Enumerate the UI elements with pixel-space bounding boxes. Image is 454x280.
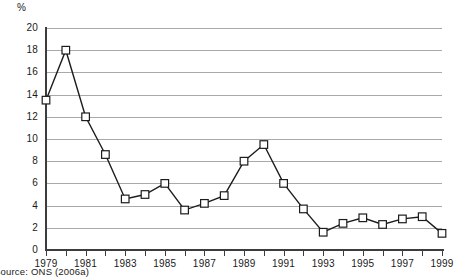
source-note: Source: ONS (2006a) xyxy=(0,266,89,277)
data-point-1994 xyxy=(339,220,347,228)
data-point-1991 xyxy=(280,180,288,188)
data-point-1999 xyxy=(438,230,446,238)
data-point-1986 xyxy=(181,206,189,214)
data-point-1990 xyxy=(260,141,268,149)
data-point-1987 xyxy=(201,200,209,208)
data-point-1983 xyxy=(121,195,129,203)
data-point-1982 xyxy=(102,151,110,159)
data-point-1989 xyxy=(240,157,248,165)
data-point-1984 xyxy=(141,191,149,199)
data-point-1998 xyxy=(418,213,426,221)
data-point-1996 xyxy=(379,221,387,229)
data-point-1995 xyxy=(359,214,367,222)
data-point-1981 xyxy=(82,113,90,121)
data-point-1988 xyxy=(220,192,228,200)
data-point-1992 xyxy=(300,205,308,213)
data-point-1993 xyxy=(319,228,327,236)
series-line xyxy=(46,50,442,233)
data-point-1997 xyxy=(399,215,407,223)
data-point-1979 xyxy=(42,96,50,104)
data-point-1985 xyxy=(161,180,169,188)
data-point-1980 xyxy=(62,46,70,54)
